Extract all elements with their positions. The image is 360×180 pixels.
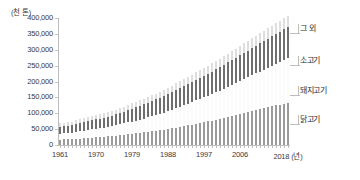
legend-label-소고기: 소고기 (300, 54, 320, 65)
x-axis-tick (124, 146, 125, 148)
bar-segment (67, 126, 69, 133)
bar-segment (119, 113, 121, 124)
x-axis-tick (104, 146, 105, 148)
bar-segment (103, 118, 105, 128)
bar-segment (235, 83, 237, 115)
bar-segment (207, 74, 209, 96)
bar-segment (175, 83, 177, 90)
bar-segment (215, 120, 217, 145)
bar-column (95, 115, 97, 145)
bar-segment (267, 28, 269, 38)
bar-segment (239, 81, 241, 114)
bar-segment (287, 27, 289, 58)
bar-segment (171, 86, 173, 93)
x-axis-tick-label: 1988 (160, 150, 176, 159)
bar-segment (195, 80, 197, 100)
legend-leader-tick (298, 115, 299, 124)
bar-segment (283, 60, 285, 103)
plot-area (58, 18, 290, 145)
bar-segment (151, 101, 153, 116)
x-axis-tick (204, 146, 205, 148)
x-axis-tick-label: 1970 (88, 150, 104, 159)
bar-column (79, 119, 81, 145)
bar-segment (251, 38, 253, 48)
bar-segment (99, 128, 101, 137)
bar-segment (75, 139, 77, 145)
bar-segment (143, 104, 145, 118)
x-axis-tick (228, 146, 229, 148)
bar-segment (223, 118, 225, 145)
bar-column (283, 18, 285, 145)
bar-segment (123, 112, 125, 124)
bar-column (239, 46, 241, 145)
x-axis-tick (192, 146, 193, 148)
bar-column (91, 116, 93, 145)
bar-segment (215, 92, 217, 119)
bar-segment (155, 99, 157, 115)
x-axis-tick (100, 146, 101, 148)
bar-segment (227, 62, 229, 86)
legend-leader-line (290, 95, 300, 96)
stacked-bar-chart: (천 톤) 050,000100,000150,000200,000250,00… (0, 0, 360, 180)
bar-column (103, 113, 105, 145)
bar-segment (119, 124, 121, 135)
legend-leader-line (290, 33, 300, 34)
bar-column (279, 21, 281, 145)
bar-segment (107, 127, 109, 136)
x-axis-tick (216, 146, 217, 148)
bar-column (127, 105, 129, 145)
x-axis-tick (92, 146, 93, 148)
x-axis-tick (164, 146, 165, 148)
bar-segment (275, 23, 277, 34)
bar-segment (191, 82, 193, 102)
bar-segment (75, 132, 77, 139)
bar-segment (259, 43, 261, 71)
x-axis-tick-label: 2018 (년) (273, 150, 302, 161)
bar-segment (283, 18, 285, 29)
bar-segment (247, 112, 249, 145)
x-axis-tick (240, 146, 241, 148)
bar-segment (127, 134, 129, 145)
x-axis-tick (184, 146, 185, 148)
bar-column (243, 43, 245, 145)
legend-leader-line (290, 65, 300, 66)
x-axis-tick (244, 146, 245, 148)
x-axis-tick (96, 146, 97, 148)
y-axis-tick-label: 100,000 (27, 108, 53, 117)
bar-segment (151, 131, 153, 145)
bar-segment (227, 87, 229, 117)
bar-column (183, 79, 185, 145)
bar-segment (231, 51, 233, 60)
bar-column (203, 68, 205, 145)
bar-segment (243, 79, 245, 113)
bar-segment (227, 54, 229, 63)
bar-segment (95, 119, 97, 128)
bar-segment (243, 43, 245, 53)
x-axis-tick (276, 146, 277, 148)
bar-segment (263, 70, 265, 109)
bar-segment (203, 122, 205, 145)
bar-segment (195, 124, 197, 145)
y-axis-tick-label: 350,000 (27, 29, 53, 38)
x-axis-tick (188, 146, 189, 148)
x-axis-tick (76, 146, 77, 148)
bar-segment (83, 122, 85, 130)
bar-segment (83, 138, 85, 145)
bar-segment (259, 33, 261, 43)
bar-segment (167, 129, 169, 145)
bar-segment (175, 90, 177, 108)
x-axis-tick (128, 146, 129, 148)
bar-segment (223, 65, 225, 89)
bar-segment (287, 103, 289, 145)
bar-segment (59, 127, 61, 134)
bar-column (135, 102, 137, 145)
x-axis-tick-label: 1997 (196, 150, 212, 159)
bar-segment (211, 72, 213, 94)
bar-segment (87, 138, 89, 145)
bar-segment (91, 138, 93, 145)
x-axis-tick (200, 146, 201, 148)
bar-column (211, 63, 213, 145)
bar-segment (167, 94, 169, 111)
bar-segment (131, 109, 133, 122)
bar-column (107, 112, 109, 145)
